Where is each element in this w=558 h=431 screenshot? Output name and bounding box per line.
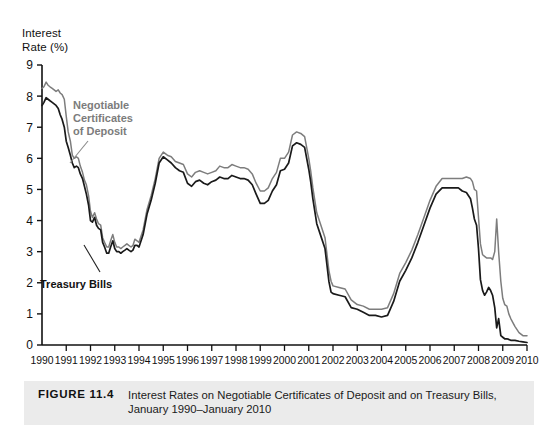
x-tick-label: 2006 [418, 355, 441, 366]
y-tick-label: 7 [26, 121, 33, 135]
x-tick-label: 1993 [103, 355, 126, 366]
figure-caption-text: Interest Rates on Negotiable Certificate… [128, 388, 512, 417]
x-tick-label: 1997 [200, 355, 223, 366]
annotation-treasury-bills-label: Treasury Bills [40, 278, 112, 290]
y-tick-label: 4 [26, 214, 33, 228]
figure-number: FIGURE 11.4 [38, 388, 114, 400]
x-tick-label: 1996 [176, 355, 199, 366]
x-tick-label: 2001 [297, 355, 320, 366]
x-tick-label: 2007 [443, 355, 466, 366]
y-tick-label: 3 [26, 245, 33, 259]
y-tick-label: 0 [26, 338, 33, 352]
y-tick-label: 1 [26, 307, 33, 321]
x-tick-label: 2003 [346, 355, 369, 366]
x-tick-label: 2008 [467, 355, 490, 366]
x-tick-label: 2000 [273, 355, 296, 366]
x-tick-label: 2009 [491, 355, 514, 366]
x-tick-label: 1999 [249, 355, 272, 366]
annotation-cd-label: NegotiableCertificatesof Deposit [73, 99, 133, 139]
x-tick-label: 1995 [152, 355, 175, 366]
x-tick-label: 2002 [321, 355, 344, 366]
y-tick-label: 6 [26, 152, 33, 166]
y-tick-label: 2 [26, 276, 33, 290]
caption: FIGURE 11.4 Interest Rates on Negotiable… [38, 388, 524, 417]
x-tick-label: 1998 [224, 355, 247, 366]
plot-area: 0123456789199019911992199319941995199619… [0, 0, 558, 372]
y-tick-label: 5 [26, 183, 33, 197]
x-tick-label: 2010 [515, 355, 538, 366]
x-tick-label: 1991 [55, 355, 78, 366]
x-tick-label: 2005 [394, 355, 417, 366]
x-tick-label: 1992 [79, 355, 102, 366]
x-tick-label: 1990 [30, 355, 53, 366]
x-tick-label: 1994 [127, 355, 150, 366]
figure-container: InterestRate (%) 01234567891990199119921… [0, 0, 558, 431]
leader-line-tbill [84, 245, 100, 272]
y-tick-label: 9 [26, 58, 33, 72]
x-tick-label: 2004 [370, 355, 393, 366]
line-chart: 0123456789199019911992199319941995199619… [0, 0, 558, 372]
y-tick-label: 8 [26, 90, 33, 104]
